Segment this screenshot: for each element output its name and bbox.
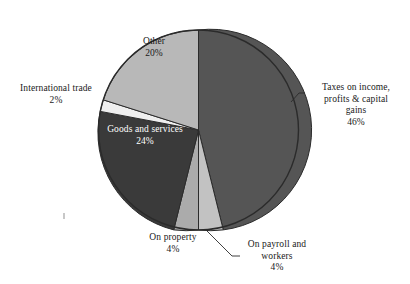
slice-value-other: 20% bbox=[124, 48, 184, 60]
slice-label-international-trade: International trade 2% bbox=[4, 83, 108, 106]
slice-label-payroll-line1: On payroll and bbox=[248, 239, 306, 249]
slice-label-goods: Goods and services 24% bbox=[88, 124, 202, 147]
slice-value-taxes: 46% bbox=[306, 117, 406, 129]
pie-chart: Taxes on income, profits & capital gains… bbox=[0, 0, 410, 284]
slice-label-taxes-line1: Taxes on income, bbox=[322, 82, 390, 92]
slice-label-taxes-line3: gains bbox=[346, 105, 367, 115]
slice-label-goods-line1: Goods and services bbox=[107, 124, 183, 134]
slice-value-property: 4% bbox=[132, 244, 214, 256]
slice-label-other-line1: Other bbox=[143, 36, 165, 46]
slice-value-international-trade: 2% bbox=[4, 95, 108, 107]
slice-label-taxes-line2: profits & capital bbox=[324, 94, 388, 104]
slice-label-payroll: On payroll and workers 4% bbox=[232, 239, 322, 274]
slice-label-property: On property 4% bbox=[132, 232, 214, 255]
slice-value-payroll: 4% bbox=[232, 262, 322, 274]
scan-artifact-speck bbox=[63, 213, 65, 219]
slice-label-other: Other 20% bbox=[124, 36, 184, 59]
slice-label-taxes: Taxes on income, profits & capital gains… bbox=[306, 82, 406, 128]
slice-value-goods: 24% bbox=[88, 136, 202, 148]
slice-label-property-line1: On property bbox=[149, 232, 196, 242]
slice-label-payroll-line2: workers bbox=[261, 251, 292, 261]
slice-label-international-trade-line1: International trade bbox=[20, 83, 92, 93]
